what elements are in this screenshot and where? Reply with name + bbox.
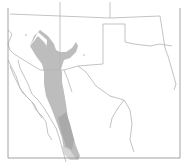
range-map xyxy=(0,0,187,164)
map-canvas xyxy=(0,0,187,164)
lake-marker xyxy=(25,34,27,36)
lake-marker xyxy=(83,54,85,56)
